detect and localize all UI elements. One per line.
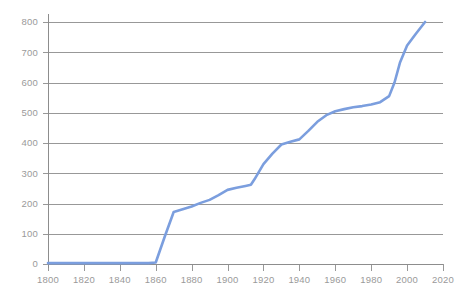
x-tick-label-1980: 1980	[360, 274, 382, 285]
y-tick-label-700: 700	[22, 47, 38, 58]
y-tick-label-300: 300	[22, 168, 38, 179]
y-axis	[43, 14, 49, 268]
x-tick-label-1880: 1880	[181, 274, 203, 285]
y-tick-label-400: 400	[22, 137, 38, 148]
y-tick-label-800: 800	[22, 16, 38, 27]
gridlines	[48, 23, 443, 265]
x-tick-label-1900: 1900	[217, 274, 239, 285]
x-tick-label-2020: 2020	[432, 274, 454, 285]
y-tick-label-100: 100	[22, 228, 38, 239]
line-chart: 0100200300400500600700800 18001820184018…	[0, 0, 471, 299]
y-tick-label-0: 0	[33, 258, 38, 269]
y-tick-label-200: 200	[22, 198, 38, 209]
x-axis-tick-labels: 1800182018401860188019001920194019601980…	[37, 274, 454, 285]
x-tick-label-1960: 1960	[324, 274, 346, 285]
series-line-1	[48, 22, 425, 263]
y-tick-label-500: 500	[22, 107, 38, 118]
x-tick-label-2000: 2000	[396, 274, 418, 285]
x-tick-label-1800: 1800	[37, 274, 59, 285]
x-tick-label-1820: 1820	[73, 274, 95, 285]
x-tick-label-1860: 1860	[145, 274, 167, 285]
x-tick-label-1940: 1940	[288, 274, 310, 285]
data-series	[48, 22, 425, 263]
y-tick-label-600: 600	[22, 77, 38, 88]
y-axis-tick-labels: 0100200300400500600700800	[22, 16, 38, 269]
x-tick-label-1840: 1840	[109, 274, 131, 285]
chart-canvas: 0100200300400500600700800 18001820184018…	[0, 0, 471, 299]
x-tick-label-1920: 1920	[252, 274, 274, 285]
